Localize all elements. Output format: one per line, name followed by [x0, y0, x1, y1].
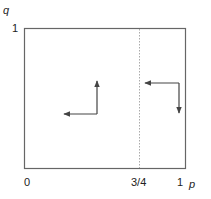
x-axis-label: p: [189, 179, 195, 190]
phase-diagram: [0, 0, 211, 199]
left-region-arrows: [64, 81, 97, 114]
x-tick-1: 1: [177, 177, 183, 188]
unit-square: [25, 29, 186, 169]
x-tick-3-4: 3/4: [131, 177, 146, 188]
x-tick-0: 0: [24, 177, 30, 188]
right-region-arrows: [145, 83, 179, 113]
